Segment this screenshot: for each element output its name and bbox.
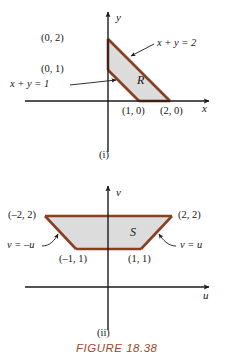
v-axis-label: v xyxy=(116,187,121,198)
vertex-0-2-label: (0, 2) xyxy=(41,33,64,44)
vertex-0-1-label: (0, 1) xyxy=(41,64,64,75)
leader-v-eq-u xyxy=(159,234,176,246)
leader-v-eq-neg-u xyxy=(42,234,58,246)
line-x-plus-y-eq-1-label: x + y = 1 xyxy=(10,79,49,90)
figure-graphics xyxy=(0,0,229,360)
region-s-letter: S xyxy=(130,226,136,238)
vertex-2-0-label: (2, 0) xyxy=(160,106,183,117)
vertex-neg1-1-label: (–1, 1) xyxy=(59,254,87,265)
vertex-1-1-label: (1, 1) xyxy=(128,254,151,265)
leader-x-plus-y-eq-1 xyxy=(70,80,116,85)
vertex-neg2-2-label: (–2, 2) xyxy=(8,210,36,221)
panel-ii-graphics xyxy=(25,186,209,330)
panel-ii-tag: (ii) xyxy=(97,328,110,339)
u-axis-label: u xyxy=(203,290,209,301)
x-axis-label: x xyxy=(202,103,207,114)
leader-x-plus-y-eq-2 xyxy=(131,44,154,56)
panel-i-tag: (i) xyxy=(99,150,109,161)
region-r-letter: R xyxy=(137,74,144,86)
line-v-eq-neg-u-label: v = –u xyxy=(7,240,35,251)
vertex-1-0-label: (1, 0) xyxy=(122,106,145,117)
line-v-eq-u-label: v = u xyxy=(180,240,202,251)
y-axis-label: y xyxy=(116,12,121,23)
line-x-plus-y-eq-2-label: x + y = 2 xyxy=(157,38,196,49)
figure-caption: FIGURE 18.38 xyxy=(76,343,157,355)
vertex-2-2-label: (2, 2) xyxy=(178,210,201,221)
figure-root: (0, 2) (0, 1) (1, 0) (2, 0) x + y = 2 x … xyxy=(0,0,229,360)
